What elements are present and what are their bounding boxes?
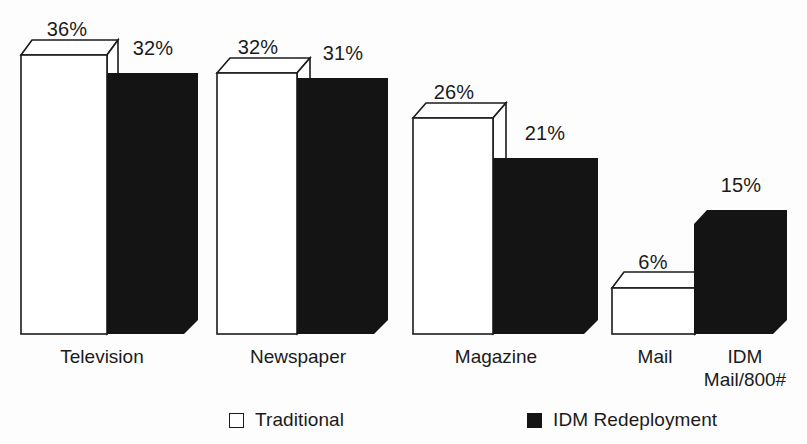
value-label-idm-redeployment: 15% [721,174,762,197]
bar-television-traditional [21,40,118,334]
legend-swatch-white-icon [229,413,244,428]
category-label-idm-line1: IDM [728,346,763,367]
legend-item-traditional: Traditional [229,409,344,431]
category-label-television: Television [60,345,143,368]
bar-newspaper-traditional [217,58,310,334]
category-label-idm-line2: Mail/800# [704,368,786,391]
value-label-mail-traditional: 6% [638,251,667,274]
bar-chart: 36% 32% 32% 31% 26% 21% 6% 15% Televisio… [0,0,807,444]
legend-swatch-black-icon [527,413,542,428]
chart-plot-area [0,0,807,444]
value-label-television-traditional: 36% [47,18,88,41]
category-label-magazine: Magazine [455,345,537,368]
bar-magazine-redeployment [493,158,598,334]
bar-idm-redeployment [694,210,787,334]
value-label-newspaper-redeployment: 31% [323,42,364,65]
bar-mail-traditional [612,272,707,334]
legend-item-redeployment: IDM Redeployment [527,409,717,431]
legend-label-redeployment: IDM Redeployment [553,409,717,431]
category-label-newspaper: Newspaper [250,345,346,368]
legend-label-traditional: Traditional [255,409,344,431]
value-label-newspaper-traditional: 32% [238,36,279,59]
value-label-magazine-traditional: 26% [434,81,475,104]
bar-magazine-traditional [413,103,506,334]
chart-legend: Traditional IDM Redeployment [0,404,807,436]
value-label-magazine-redeployment: 21% [525,122,566,145]
category-label-mail: Mail [638,345,673,368]
category-label-idm-mail-800: IDM Mail/800# [704,345,786,391]
bar-newspaper-redeployment [297,78,388,334]
bar-television-redeployment [107,73,198,334]
value-label-television-redeployment: 32% [133,37,174,60]
